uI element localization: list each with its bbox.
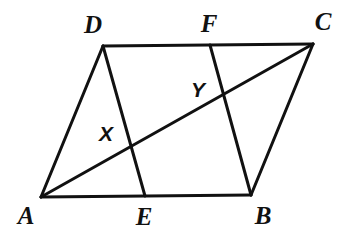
geometry-canvas [0, 0, 353, 237]
point-label-d: D [84, 12, 102, 37]
point-label-y: Y [191, 79, 205, 100]
point-label-c: C [315, 9, 332, 34]
side-CB [251, 44, 313, 195]
point-label-x: X [99, 123, 113, 144]
geometry-figure: ABCDEFXY [0, 0, 353, 237]
segment-FB [210, 45, 251, 195]
side-AD [41, 46, 103, 197]
side-DC [103, 44, 313, 46]
diagonal-AC [41, 44, 313, 197]
point-label-f: F [201, 11, 218, 36]
point-label-a: A [18, 203, 35, 228]
point-label-b: B [255, 203, 272, 228]
point-label-e: E [136, 204, 153, 229]
